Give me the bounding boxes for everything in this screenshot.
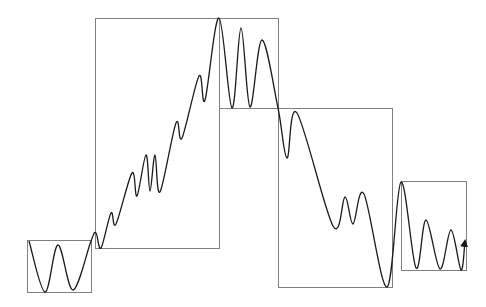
segment-box-4 bbox=[279, 109, 393, 288]
diagram-svg bbox=[0, 0, 486, 307]
segment-box-2 bbox=[96, 19, 220, 249]
segment-box-5 bbox=[402, 182, 467, 271]
segment-boxes bbox=[28, 19, 467, 293]
diagram-canvas bbox=[0, 0, 486, 307]
segment-box-1 bbox=[28, 241, 92, 293]
oscillating-curve bbox=[29, 18, 465, 292]
